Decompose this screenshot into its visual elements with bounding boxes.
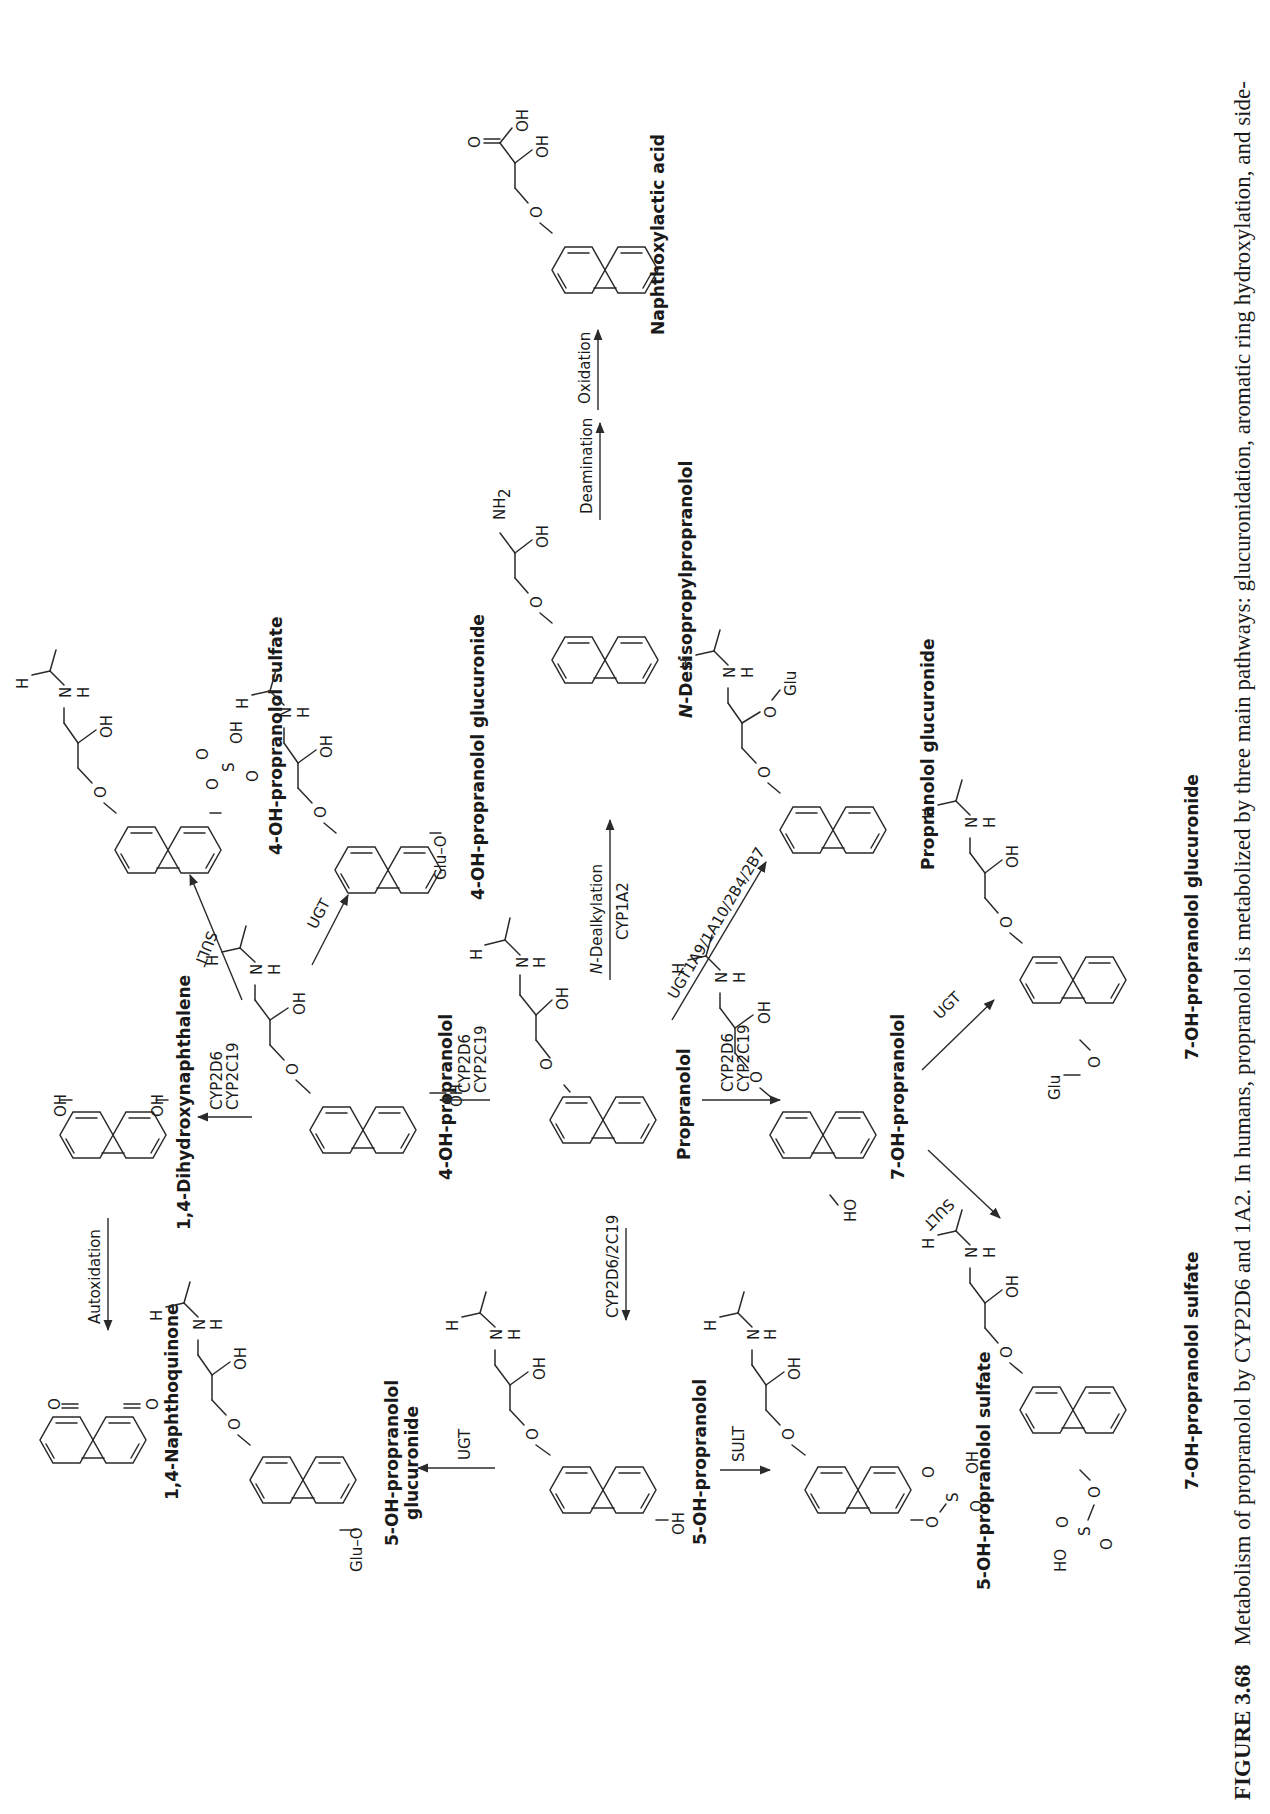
svg-text:CYP1A2: CYP1A2 bbox=[614, 882, 632, 940]
svg-text:NH: NH bbox=[491, 498, 509, 521]
svg-text:O: O bbox=[284, 1063, 302, 1075]
svg-text:H: H bbox=[444, 1320, 462, 1331]
label-1-4-naphthoquinone: 1,4-Naphthoquinone bbox=[162, 1303, 182, 1500]
svg-text:O: O bbox=[920, 1466, 938, 1478]
label-4-oh-propranolol-sulfate: 4-OH-propranolol sulfate bbox=[266, 617, 286, 855]
molecule-naphthoxylactic-acid: O OH O OH bbox=[466, 109, 658, 293]
svg-text:S: S bbox=[944, 1492, 962, 1502]
svg-text:H: H bbox=[75, 687, 93, 698]
svg-text:OH: OH bbox=[1004, 1275, 1022, 1298]
svg-text:N: N bbox=[248, 964, 266, 975]
svg-text:H: H bbox=[981, 817, 999, 828]
svg-text:OH: OH bbox=[232, 1347, 250, 1370]
label-5-oh-glucuronide-line2: glucuronide bbox=[402, 1406, 422, 1520]
svg-text:2: 2 bbox=[496, 488, 514, 498]
label-5-oh-propranolol: 5-OH-propranolol bbox=[690, 1379, 710, 1545]
label-naphthoxylactic-acid: Naphthoxylactic acid bbox=[648, 134, 668, 335]
svg-text:OH: OH bbox=[149, 1094, 167, 1117]
svg-text:O: O bbox=[1086, 1486, 1104, 1498]
label-4-oh-propranolol-glucuronide: 4-OH-propranolol glucuronide bbox=[468, 614, 488, 900]
svg-text:OH: OH bbox=[1004, 845, 1022, 868]
svg-text:HO: HO bbox=[1052, 1549, 1070, 1572]
svg-text:Autoxidation: Autoxidation bbox=[86, 1229, 104, 1324]
molecule-propranolol: O OH N H H bbox=[468, 918, 656, 1143]
svg-text:OH: OH bbox=[554, 987, 572, 1010]
svg-text:H: H bbox=[702, 1320, 720, 1331]
svg-text:O: O bbox=[204, 778, 222, 790]
svg-text:O: O bbox=[1054, 1516, 1072, 1528]
svg-text:N: N bbox=[191, 1319, 209, 1330]
svg-text:H: H bbox=[981, 1247, 999, 1258]
molecule-n-desisopropylpropranolol: O OH NH 2 bbox=[491, 488, 658, 683]
molecule-propranolol-glucuronide: O O Glu N H H bbox=[678, 630, 886, 853]
svg-text:N: N bbox=[963, 1247, 981, 1258]
svg-text:Oxidation: Oxidation bbox=[576, 332, 594, 404]
svg-text:Glu–O: Glu–O bbox=[432, 835, 450, 880]
svg-text:N: N bbox=[514, 957, 532, 968]
svg-text:OH: OH bbox=[318, 735, 336, 758]
svg-text:O: O bbox=[998, 1346, 1016, 1358]
propranolol-metabolism-figure: O OH N H H Propranolol O OH N H H OH 4-O… bbox=[0, 0, 1270, 1814]
figure-number: FIGURE 3.68 bbox=[1230, 1665, 1255, 1800]
svg-text:H: H bbox=[762, 1329, 780, 1340]
svg-text:N: N bbox=[488, 1329, 506, 1340]
svg-text:O: O bbox=[524, 1428, 542, 1440]
svg-text:S: S bbox=[220, 762, 238, 772]
svg-text:H: H bbox=[468, 949, 486, 960]
svg-text:Glu: Glu bbox=[1046, 1075, 1064, 1100]
svg-text:O: O bbox=[1086, 1056, 1104, 1068]
svg-text:UGT: UGT bbox=[456, 1428, 474, 1460]
svg-text:H: H bbox=[506, 1329, 524, 1340]
svg-text:Glu–O: Glu–O bbox=[348, 1527, 366, 1572]
svg-text:H: H bbox=[148, 1310, 166, 1321]
label-4-oh-propranolol: 4-OH-propranolol bbox=[436, 1014, 456, 1180]
svg-text:O: O bbox=[528, 596, 546, 608]
svg-text:N: N bbox=[721, 667, 739, 678]
svg-text:O: O bbox=[528, 206, 546, 218]
label-7-oh-propranolol-glucuronide: 7-OH-propranolol glucuronide bbox=[1182, 774, 1202, 1060]
molecule-1-4-naphthoquinone: O O bbox=[40, 1398, 162, 1463]
molecule-5-oh-propranolol: O OH N H H OH bbox=[444, 1292, 688, 1535]
molecule-7-oh-propranolol: O OH N H H HO bbox=[670, 935, 876, 1222]
svg-text:UGT: UGT bbox=[304, 895, 335, 932]
svg-text:OH: OH bbox=[756, 1001, 774, 1024]
svg-text:OH: OH bbox=[98, 715, 116, 738]
atom-o: O bbox=[538, 1058, 556, 1070]
svg-text:CYP2D6/2C19: CYP2D6/2C19 bbox=[604, 1215, 622, 1318]
label-n-desisopropylpropranolol: N-Desisopropylpropranolol bbox=[676, 461, 696, 718]
svg-text:Glu: Glu bbox=[782, 671, 800, 696]
svg-text:OH: OH bbox=[786, 1357, 804, 1380]
svg-text:CYP2C19: CYP2C19 bbox=[472, 1025, 490, 1093]
svg-text:N: N bbox=[277, 707, 295, 718]
svg-text:O: O bbox=[244, 770, 262, 782]
svg-text:O: O bbox=[194, 748, 212, 760]
label-5-oh-glucuronide-line1: 5-OH-propranolol bbox=[382, 1380, 402, 1546]
svg-text:CYP2C19: CYP2C19 bbox=[224, 1042, 242, 1110]
svg-text:N: N bbox=[57, 687, 75, 698]
svg-text:H: H bbox=[678, 658, 696, 669]
svg-text:S: S bbox=[1076, 1526, 1094, 1536]
molecule-1-4-dihydroxynaphthalene: OH OH bbox=[52, 1094, 168, 1158]
svg-text:H: H bbox=[739, 667, 757, 678]
molecule-7-oh-propranolol-glucuronide: O OH N H H O Glu bbox=[920, 780, 1126, 1100]
svg-text:N-Dealkylation: N-Dealkylation bbox=[588, 864, 606, 974]
label-propranolol: Propranolol bbox=[674, 1048, 694, 1160]
svg-text:O: O bbox=[756, 766, 774, 778]
svg-text:SULT: SULT bbox=[919, 1195, 958, 1234]
svg-text:OH: OH bbox=[291, 992, 309, 1015]
svg-text:H: H bbox=[731, 972, 749, 983]
svg-text:H: H bbox=[531, 957, 549, 968]
svg-text:OH: OH bbox=[534, 525, 552, 548]
svg-text:H: H bbox=[920, 1238, 938, 1249]
svg-text:O: O bbox=[762, 706, 780, 718]
svg-text:OH: OH bbox=[52, 1094, 70, 1117]
figure-caption: FIGURE 3.68 Metabolism of propranolol by… bbox=[1230, 81, 1255, 1800]
label-5-oh-propranolol-sulfate: 5-OH-propranolol sulfate bbox=[974, 1352, 994, 1590]
label-1-4-dihydroxynaphthalene: 1,4-Dihydroxynaphthalene bbox=[174, 975, 194, 1230]
svg-text:O: O bbox=[226, 1418, 244, 1430]
svg-text:H: H bbox=[295, 707, 313, 718]
svg-text:OH: OH bbox=[228, 721, 246, 744]
svg-text:HO: HO bbox=[842, 1199, 860, 1222]
label-propranolol-glucuronide: Propranolol glucuronide bbox=[918, 638, 938, 870]
svg-text:H: H bbox=[14, 678, 32, 689]
